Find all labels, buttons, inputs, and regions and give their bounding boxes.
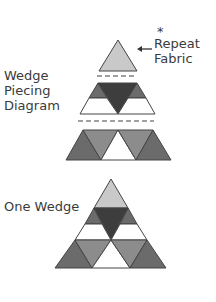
repeat-fabric-line1: Repeat [154, 36, 200, 51]
repeat-fabric-line2: Fabric [154, 51, 193, 66]
piecing-label-line2: Piecing [4, 83, 50, 98]
piecing-row-2 [80, 83, 155, 114]
one-wedge-label: One Wedge [4, 199, 79, 214]
piecing-row-3 [66, 130, 171, 160]
piecing-label-line1: Wedge [4, 68, 49, 83]
piecing-label-line3: Diagram [4, 98, 60, 113]
arrow-left-icon [137, 46, 152, 52]
one-wedge [55, 179, 166, 268]
piecing-row-1 [99, 40, 137, 71]
